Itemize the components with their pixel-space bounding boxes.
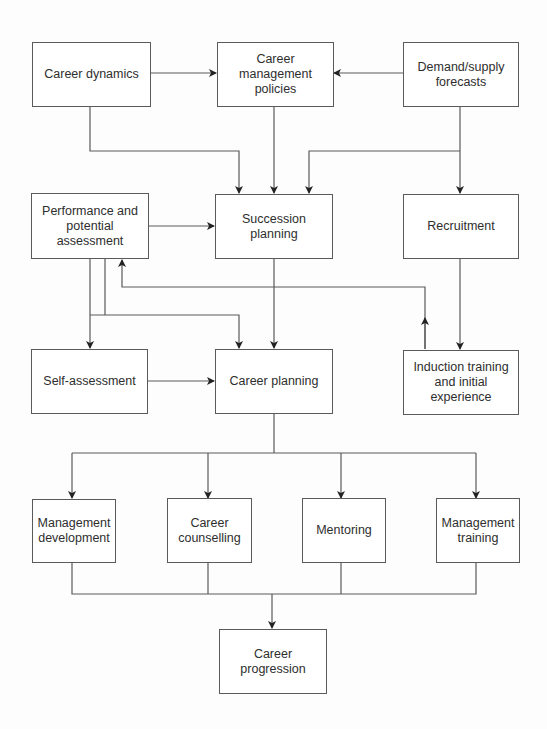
node-career-counselling: Career counselling <box>167 498 252 563</box>
node-succession-planning: Succession planning <box>215 194 333 259</box>
node-label: Self-assessment <box>43 374 135 389</box>
node-label: Recruitment <box>427 219 494 234</box>
node-label: Career planning <box>230 374 319 389</box>
node-career-progression: Career progression <box>219 629 327 694</box>
node-performance-potential-assessment: Performance and potential assessment <box>31 193 149 259</box>
node-label: Career dynamics <box>44 67 138 82</box>
edge-performance-to-career-planning <box>90 259 239 348</box>
node-label: Induction training and initial experienc… <box>413 360 508 405</box>
node-career-dynamics: Career dynamics <box>32 42 151 107</box>
node-label: Mentoring <box>316 523 372 538</box>
node-label: Management development <box>38 516 111 546</box>
edge-career-planning-trunk <box>72 414 476 453</box>
node-label: Career progression <box>240 647 305 677</box>
node-recruitment: Recruitment <box>403 194 519 259</box>
node-label: Succession planning <box>222 212 326 242</box>
edge-career-dynamics-to-succession <box>90 107 239 193</box>
edge-development-activities-join <box>72 563 476 594</box>
node-mentoring: Mentoring <box>302 498 386 563</box>
node-label: Demand/supply forecasts <box>418 60 505 90</box>
node-label: Career management policies <box>224 52 327 97</box>
career-management-flowchart: Career dynamics Career management polici… <box>0 0 547 729</box>
node-career-planning: Career planning <box>215 349 333 414</box>
node-demand-supply-forecasts: Demand/supply forecasts <box>403 42 519 107</box>
edge-demand-supply-to-succession <box>309 151 460 193</box>
node-label: Management training <box>442 516 515 546</box>
node-management-development: Management development <box>32 499 116 563</box>
node-career-management-policies: Career management policies <box>217 42 334 107</box>
node-induction-training: Induction training and initial experienc… <box>403 350 519 415</box>
node-management-training: Management training <box>436 498 520 563</box>
node-label: Performance and potential assessment <box>42 204 138 249</box>
node-self-assessment: Self-assessment <box>31 349 148 414</box>
node-label: Career counselling <box>178 516 241 546</box>
